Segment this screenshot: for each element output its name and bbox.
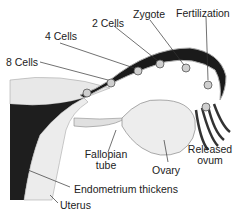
fallopian-tube bbox=[80, 48, 226, 100]
label-endometrium: Endometrium thickens bbox=[74, 184, 178, 195]
label-released-ovum-line2: ovum bbox=[182, 155, 238, 166]
label-4-cells: 4 Cells bbox=[45, 31, 77, 42]
label-2-cells: 2 Cells bbox=[92, 18, 124, 29]
label-ovary: Ovary bbox=[152, 165, 180, 176]
label-fallopian-tube: Fallopian tube bbox=[80, 149, 132, 171]
ovarian-ligament bbox=[74, 118, 125, 127]
label-fallopian-tube-line2: tube bbox=[80, 160, 132, 171]
label-uterus: Uterus bbox=[60, 200, 91, 211]
label-8-cells: 8 Cells bbox=[6, 57, 38, 68]
reproductive-diagram bbox=[0, 0, 238, 213]
label-fertilization: Fertilization bbox=[176, 8, 230, 19]
label-zygote: Zygote bbox=[133, 9, 165, 20]
label-released-ovum: Released ovum bbox=[182, 144, 238, 166]
